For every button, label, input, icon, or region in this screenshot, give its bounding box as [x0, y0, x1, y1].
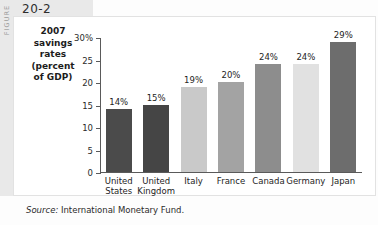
y-axis-tick-label: 20 [82, 78, 93, 88]
source-prefix: Source: [26, 205, 58, 215]
x-axis-category-line: United [105, 176, 133, 186]
x-axis-line [100, 172, 362, 173]
y-axis-tick-label: 30% [74, 33, 93, 43]
bar-group[interactable]: 20%France [218, 37, 244, 172]
bar[interactable] [293, 64, 319, 172]
x-axis-category-label: Japan [331, 176, 355, 186]
bar-value-label: 20% [222, 70, 241, 80]
bar-group[interactable]: 15%UnitedKingdom [143, 37, 169, 172]
x-axis-category-line: Japan [331, 176, 355, 186]
x-axis-category-label: UnitedStates [105, 176, 133, 196]
figure-word-label: FIGURE [3, 0, 11, 45]
x-axis-category-line: States [105, 186, 133, 196]
bar[interactable] [181, 87, 207, 173]
bar[interactable] [143, 105, 169, 173]
x-axis-category-label: Germany [286, 176, 325, 186]
x-axis-category-line: Kingdom [137, 186, 175, 196]
y-axis-title-line: of GDP) [20, 72, 86, 84]
bar[interactable] [330, 42, 356, 173]
y-axis-tick-label: 15 [82, 101, 93, 111]
bar-group[interactable]: 29%Japan [330, 37, 356, 172]
figure-number: 20-2 [22, 2, 51, 16]
bar[interactable] [106, 109, 132, 172]
y-axis-tick [96, 173, 101, 174]
y-axis-tick-label: 10 [82, 123, 93, 133]
x-axis-category-line: Italy [184, 176, 202, 186]
bar-value-label: 14% [109, 97, 128, 107]
x-axis-category-label: Canada [252, 176, 284, 186]
bar-value-label: 24% [259, 52, 278, 62]
y-axis-tick-label: 0 [88, 168, 93, 178]
figure-page: FIGURE 20-2 2007 savings rates (percent … [0, 0, 378, 225]
x-axis-category-line: Germany [286, 176, 325, 186]
x-axis-category-line: United [137, 176, 175, 186]
bar-group[interactable]: 14%UnitedStates [106, 37, 132, 172]
x-axis-category-line: France [217, 176, 245, 186]
x-axis-category-line: Canada [252, 176, 284, 186]
x-axis-category-label: UnitedKingdom [137, 176, 175, 196]
y-axis-title-line: (percent [20, 61, 86, 73]
bar-series: 14%UnitedStates15%UnitedKingdom19%Italy2… [100, 37, 362, 172]
source-note: Source: International Monetary Fund. [26, 205, 184, 215]
bar-value-label: 29% [334, 30, 353, 40]
plot-area: 051015202530% 14%UnitedStates15%UnitedKi… [100, 38, 362, 173]
source-text: International Monetary Fund. [61, 205, 184, 215]
x-axis-category-label: France [217, 176, 245, 186]
y-axis-tick-label: 5 [88, 146, 93, 156]
bar[interactable] [255, 64, 281, 172]
bar[interactable] [218, 82, 244, 172]
bar-value-label: 15% [147, 93, 166, 103]
y-axis-title-line: rates [20, 49, 86, 61]
bar-value-label: 24% [296, 52, 315, 62]
bar-value-label: 19% [184, 75, 203, 85]
x-axis-category-label: Italy [184, 176, 202, 186]
bar-group[interactable]: 24%Canada [255, 37, 281, 172]
bar-group[interactable]: 24%Germany [293, 37, 319, 172]
y-axis-tick-label: 25 [82, 56, 93, 66]
bar-group[interactable]: 19%Italy [181, 37, 207, 172]
